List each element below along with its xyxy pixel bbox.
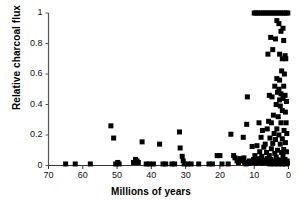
- data-point: [226, 161, 231, 166]
- data-point: [257, 149, 262, 154]
- data-point: [284, 120, 289, 125]
- data-point: [265, 126, 270, 131]
- data-point: [88, 161, 93, 166]
- y-tick-label: 0.2: [0, 130, 43, 139]
- data-point: [259, 135, 264, 140]
- data-point: [217, 153, 222, 158]
- data-point: [267, 136, 272, 141]
- data-point: [283, 140, 288, 145]
- data-point: [281, 38, 286, 43]
- data-point: [265, 52, 270, 57]
- data-point: [157, 142, 162, 147]
- x-tick-label: 10: [242, 171, 266, 180]
- data-point: [241, 135, 246, 140]
- data-point: [63, 161, 68, 166]
- data-point: [281, 26, 286, 31]
- data-point: [210, 161, 215, 166]
- data-point: [270, 94, 275, 99]
- data-point: [136, 160, 141, 165]
- data-point: [272, 131, 277, 136]
- data-point: [117, 161, 122, 166]
- data-points-group: [63, 11, 290, 167]
- data-point: [189, 161, 194, 166]
- data-point: [245, 94, 250, 99]
- data-point: [228, 132, 233, 137]
- x-tick-label: 70: [37, 171, 61, 180]
- data-point: [244, 122, 249, 127]
- data-point: [276, 21, 281, 26]
- data-point: [284, 99, 289, 104]
- x-tick-label: 50: [105, 171, 129, 180]
- y-axis-title: Relative charcoal flux: [11, 0, 22, 128]
- data-point: [281, 84, 286, 89]
- data-point: [196, 161, 201, 166]
- data-point: [108, 123, 113, 128]
- data-point: [269, 146, 274, 151]
- data-point: [273, 36, 278, 41]
- data-point: [151, 161, 156, 166]
- x-tick-label: 30: [174, 171, 198, 180]
- data-point: [285, 11, 290, 16]
- data-point: [278, 142, 283, 147]
- data-point: [261, 145, 266, 150]
- data-point: [241, 155, 246, 160]
- data-point: [73, 161, 78, 166]
- axes-lines: [48, 13, 289, 166]
- data-point: [270, 141, 275, 146]
- data-point: [283, 110, 288, 115]
- data-point: [180, 154, 185, 159]
- data-point: [178, 145, 183, 150]
- data-point: [250, 144, 255, 149]
- x-tick-label: 40: [139, 171, 163, 180]
- data-point: [243, 161, 248, 166]
- data-point: [140, 139, 145, 144]
- y-tick-label: 0: [0, 161, 43, 170]
- data-point: [270, 47, 275, 52]
- data-point: [283, 56, 288, 61]
- data-point: [271, 113, 276, 118]
- data-point: [268, 35, 273, 40]
- data-point: [285, 161, 290, 166]
- data-point: [219, 161, 224, 166]
- data-point: [249, 160, 254, 165]
- data-point: [276, 114, 281, 119]
- x-tick-label: 0: [277, 171, 301, 180]
- data-point: [278, 104, 283, 109]
- data-point: [278, 120, 283, 125]
- data-point: [172, 161, 177, 166]
- data-point: [277, 52, 282, 57]
- data-point: [284, 131, 289, 136]
- data-point: [269, 120, 274, 125]
- data-point: [177, 129, 182, 134]
- data-point: [111, 136, 116, 141]
- x-tick-label: 60: [71, 171, 95, 180]
- data-point: [277, 78, 282, 83]
- x-tick-label: 20: [208, 171, 232, 180]
- data-point: [257, 120, 262, 125]
- data-point: [163, 161, 168, 166]
- data-point: [284, 149, 289, 154]
- data-point: [254, 143, 259, 148]
- x-axis-title: Millions of years: [0, 186, 302, 197]
- data-point: [274, 126, 279, 131]
- chart-figure: 00.20.40.60.81706050403020100 Relative c…: [0, 0, 302, 201]
- data-point: [282, 72, 287, 77]
- data-point: [260, 128, 265, 133]
